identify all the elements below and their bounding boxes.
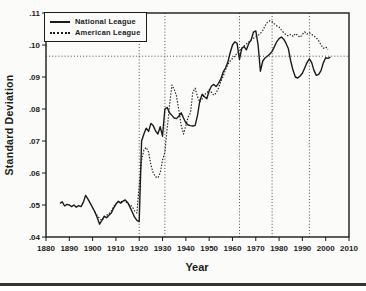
legend-label-national-league: National League <box>75 17 136 26</box>
y-tick-label: .07 <box>29 137 41 146</box>
plot-frame <box>46 13 349 237</box>
x-tick-label: 1950 <box>200 244 218 253</box>
x-tick-label: 2010 <box>340 244 358 253</box>
page-margin-strip <box>0 286 366 291</box>
y-tick-label: .04 <box>29 233 41 242</box>
x-tick-label: 1920 <box>130 244 148 253</box>
x-tick-label: 1990 <box>293 244 311 253</box>
y-axis-title: Standard Deviation <box>3 74 15 175</box>
x-tick-label: 1980 <box>270 244 288 253</box>
solid-line-swatch <box>50 21 70 23</box>
y-tick-label: .05 <box>29 201 41 210</box>
x-axis-title: Year <box>185 261 208 273</box>
x-tick-label: 1900 <box>84 244 102 253</box>
x-tick-label: 1960 <box>224 244 242 253</box>
y-tick-label: .08 <box>29 105 41 114</box>
scanned-chart-page: .04.05.06.07.08.09.10.111880189019001910… <box>0 0 366 291</box>
american-league-line <box>95 21 328 221</box>
x-tick-label: 1970 <box>247 244 265 253</box>
legend-item-american-league: American League <box>50 27 142 38</box>
national-league-line <box>60 31 330 224</box>
x-tick-label: 2000 <box>317 244 335 253</box>
y-tick-label: .11 <box>29 9 40 18</box>
legend: National League American League <box>44 12 147 42</box>
y-tick-label: .10 <box>29 41 41 50</box>
y-tick-label: .06 <box>29 169 41 178</box>
x-tick-label: 1880 <box>37 244 55 253</box>
y-tick-label: .09 <box>29 73 41 82</box>
line-chart: .04.05.06.07.08.09.10.111880189019001910… <box>0 0 366 282</box>
dotted-line-swatch <box>50 32 70 34</box>
legend-label-american-league: American League <box>75 28 141 37</box>
x-tick-label: 1940 <box>177 244 195 253</box>
x-tick-label: 1930 <box>154 244 172 253</box>
x-tick-label: 1910 <box>107 244 125 253</box>
legend-item-national-league: National League <box>50 16 142 27</box>
x-tick-label: 1890 <box>60 244 78 253</box>
